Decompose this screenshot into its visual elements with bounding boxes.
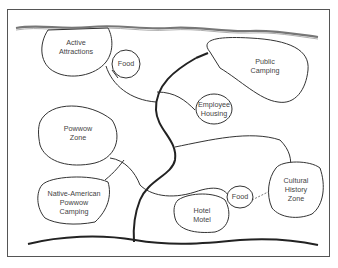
zone-food-top: Food [112, 50, 140, 78]
svg-text:Food: Food [118, 59, 134, 68]
svg-text:History: History [285, 185, 308, 194]
svg-text:Native-American: Native-American [47, 189, 100, 198]
zone-native-american-camping: Native-American Powwow Camping [38, 177, 110, 224]
svg-text:Zone: Zone [288, 194, 304, 203]
site-plan-diagram: Active Attractions Food Public Camping E… [0, 0, 338, 268]
svg-text:Housing: Housing [201, 109, 227, 118]
svg-text:Camping: Camping [251, 66, 280, 75]
zone-public-camping: Public Camping [207, 38, 308, 103]
svg-text:Active: Active [66, 38, 86, 47]
svg-text:Cultural: Cultural [284, 176, 309, 185]
bottom-boundary [28, 237, 318, 245]
zone-food-bottom: Food [227, 186, 253, 208]
svg-text:Powwow: Powwow [60, 198, 89, 207]
zone-employee-housing: Employee Housing [196, 94, 232, 124]
svg-text:Employee: Employee [198, 100, 230, 109]
zone-hotel-motel: Hotel Motel [174, 194, 229, 232]
svg-text:Zone: Zone [70, 133, 86, 142]
svg-text:Motel: Motel [193, 215, 211, 224]
svg-text:Attractions: Attractions [59, 47, 93, 56]
zone-active-attractions: Active Attractions [42, 28, 112, 76]
zone-powwow: Powwow Zone [39, 106, 117, 165]
svg-text:Powwow: Powwow [64, 124, 93, 133]
zone-cultural-history: Cultural History Zone [269, 162, 324, 217]
svg-text:Public: Public [255, 57, 275, 66]
svg-text:Food: Food [232, 192, 248, 201]
svg-text:Camping: Camping [60, 207, 89, 216]
svg-text:Hotel: Hotel [194, 206, 211, 215]
